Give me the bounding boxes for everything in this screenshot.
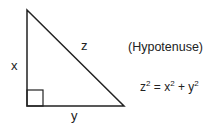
eq-plus: +: [175, 80, 189, 94]
right-angle-marker: [27, 90, 43, 106]
side-x-label: x: [11, 59, 18, 72]
pythagorean-equation: z2 = x2 + y2: [140, 81, 199, 93]
triangle-figure: [0, 0, 211, 127]
side-z-label: z: [81, 39, 88, 52]
triangle: [27, 10, 124, 106]
eq-equals: =: [150, 80, 164, 94]
eq-x-exp: 2: [170, 79, 174, 88]
side-y-label: y: [71, 109, 78, 122]
eq-y-exp: 2: [194, 79, 198, 88]
hypotenuse-note: (Hypotenuse): [128, 41, 203, 54]
eq-z-exp: 2: [146, 79, 150, 88]
